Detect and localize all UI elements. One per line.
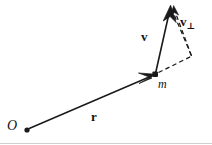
label-perpendicular-velocity: v⊥ <box>180 15 195 31</box>
label-origin: O <box>7 119 17 133</box>
label-mass: m <box>158 78 167 90</box>
vector-v-shaft <box>156 9 171 74</box>
label-perpendicular-subscript: ⊥ <box>187 21 196 31</box>
label-velocity-vector: v <box>141 30 148 43</box>
vector-diagram-figure: O m r v v⊥ <box>0 0 212 145</box>
dashed-r-extension <box>159 57 192 73</box>
label-position-vector: r <box>91 110 97 123</box>
origin-point-dot <box>24 127 29 132</box>
vector-v <box>156 5 177 73</box>
